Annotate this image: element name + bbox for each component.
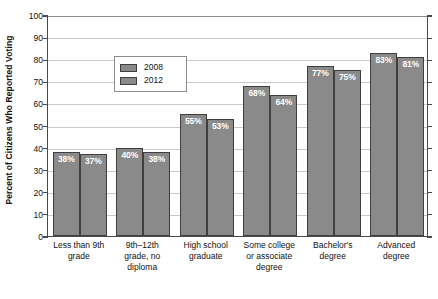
bar-value-label: 55% [181,117,206,126]
bar-chart: Percent of Citizens Who Reported Voting … [0,0,438,299]
y-tick-label: 80 [21,56,43,65]
y-axis-title-text: Percent of Citizens Who Reported Voting [4,35,14,204]
bar-value-label: 81% [398,60,423,69]
legend-item-2012[interactable]: 2012 [120,74,181,87]
bar-group: 68%64% [239,16,303,236]
y-tick-label: 0 [21,233,43,242]
bar-2008-2[interactable]: 40% [116,148,143,236]
bar-2008-3[interactable]: 55% [180,114,207,236]
x-category-label-line: grade, no [111,251,175,262]
bar-value-label: 75% [335,73,360,82]
bar-value-label: 77% [308,69,333,78]
y-tick-label: 90 [21,34,43,43]
y-tick-label: 10 [21,211,43,220]
x-category-label: Advanceddegree [365,240,429,262]
x-category-label-line: 9th–12th [111,240,175,251]
plot-area: 38%37%40%38%55%53%68%64%77%75%83%81% 200… [47,16,428,237]
x-category-label-line: graduate [174,251,238,262]
x-category-label: 9th–12thgrade, nodiploma [111,240,175,273]
x-category-label-line: degree [301,251,365,262]
y-tick-label: 100 [21,12,43,21]
bar-2008-4[interactable]: 68% [243,86,270,236]
bar-2012-3[interactable]: 53% [207,119,234,236]
bar-group: 83%81% [366,16,430,236]
y-axis-title: Percent of Citizens Who Reported Voting [0,0,18,240]
x-category-label-line: or associate [238,251,302,262]
bar-2008-5[interactable]: 77% [307,66,334,236]
bar-value-label: 64% [271,98,296,107]
bar-value-label: 53% [208,122,233,131]
x-category-label: Bachelor'sdegree [301,240,365,262]
bar-value-label: 83% [371,56,396,65]
x-category-label-line: grade [47,251,111,262]
y-tick-label: 30 [21,166,43,175]
y-tick-label: 60 [21,100,43,109]
bar-group: 38%37% [48,16,112,236]
axis-tick [427,236,432,237]
bar-value-label: 40% [117,151,142,160]
y-tick-label: 40 [21,144,43,153]
x-category-label-line: Less than 9th [47,240,111,251]
chart-legend: 20082012 [114,56,187,92]
bar-2008-1[interactable]: 38% [53,152,80,236]
bar-group: 55%53% [175,16,239,236]
bar-value-label: 37% [81,157,106,166]
bar-value-label: 68% [244,89,269,98]
bar-2012-5[interactable]: 75% [334,70,361,236]
x-category-label-line: Bachelor's [301,240,365,251]
x-category-label-line: Some college [238,240,302,251]
bar-groups: 38%37%40%38%55%53%68%64%77%75%83%81% [48,16,427,236]
x-category-label-line: degree [238,262,302,273]
legend-label: 2012 [144,76,163,85]
y-axis-tick-labels: 0102030405060708090100 [19,16,43,237]
y-tick-label: 70 [21,78,43,87]
legend-swatch-icon [120,64,137,72]
legend-label: 2008 [144,63,163,72]
axis-tick [43,236,48,237]
x-category-label-line: degree [365,251,429,262]
y-tick-label: 50 [21,122,43,131]
bar-2012-6[interactable]: 81% [397,57,424,236]
legend-swatch-icon [120,77,137,85]
x-axis-category-labels: Less than 9thgrade9th–12thgrade, nodiplo… [47,240,428,298]
x-category-label-line: diploma [111,262,175,273]
legend-item-2008[interactable]: 2008 [120,61,181,74]
bar-group: 40%38% [112,16,176,236]
x-category-label-line: High school [174,240,238,251]
bar-group: 77%75% [302,16,366,236]
x-category-label-line: Advanced [365,240,429,251]
x-category-label: Some collegeor associatedegree [238,240,302,273]
bar-2008-6[interactable]: 83% [370,53,397,236]
bar-2012-4[interactable]: 64% [270,95,297,236]
x-category-label: Less than 9thgrade [47,240,111,262]
bar-value-label: 38% [54,155,79,164]
bar-2012-2[interactable]: 38% [143,152,170,236]
bar-value-label: 38% [144,155,169,164]
bar-2012-1[interactable]: 37% [80,154,107,236]
y-tick-label: 20 [21,189,43,198]
x-category-label: High schoolgraduate [174,240,238,262]
